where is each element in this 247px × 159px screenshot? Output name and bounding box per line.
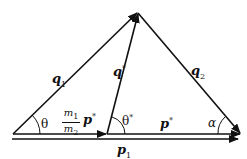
angle-theta: θ xyxy=(41,118,48,130)
vector-diagram xyxy=(0,0,247,159)
angle-theta-star: θ* xyxy=(122,114,133,127)
arc-alpha xyxy=(218,117,225,134)
label-q2: q2 xyxy=(191,64,205,81)
label-p-star-scaled: p* xyxy=(83,113,96,126)
label-p-star: p* xyxy=(160,117,173,130)
label-q1: q1 xyxy=(52,72,66,89)
label-p1: p1 xyxy=(117,143,131,159)
angle-alpha: α xyxy=(208,117,216,129)
label-mass-ratio: m1 m2 xyxy=(62,108,80,137)
arc-theta xyxy=(32,115,40,134)
label-q-star: q* xyxy=(113,65,126,78)
vector-q2 xyxy=(138,13,240,133)
